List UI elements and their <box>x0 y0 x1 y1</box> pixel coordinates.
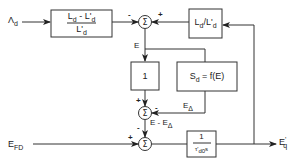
lambda-d-input-label: Λd <box>8 16 18 25</box>
feedback-path <box>223 25 254 144</box>
integrator-denominator: τ'd0s <box>187 146 216 152</box>
eq-prime-output-label: E'q <box>279 138 287 147</box>
sum3-symbol: Σ <box>142 140 147 149</box>
ratio-block-label: Ld/L'd <box>189 18 222 27</box>
sum2-plus-sign: + <box>136 97 141 105</box>
sum2-symbol: Σ <box>142 109 147 118</box>
integrator-numerator: 1 <box>187 133 216 141</box>
e-delta-arrow <box>152 91 205 113</box>
sum3-plus-sign: + <box>128 134 133 142</box>
e-branch-path <box>145 49 205 62</box>
e-delta-label: EΔ <box>183 102 193 110</box>
gain-block-numerator: Ld - L'd <box>51 12 112 21</box>
sum1-symbol: Σ <box>142 18 147 27</box>
gain-block-denominator: L'd <box>51 25 112 34</box>
unity-block-label: 1 <box>131 72 159 81</box>
sum1-plus-sign: + <box>158 11 163 19</box>
e-signal-label: E <box>134 42 139 50</box>
sum2-minus-sign: - <box>155 104 158 112</box>
sum3-minus-sign: - <box>137 124 140 132</box>
block-diagram-canvas: Σ Σ Σ <box>0 0 304 165</box>
saturation-block-label: Sd = f(E) <box>177 72 237 81</box>
efd-input-label: EFD <box>8 140 23 149</box>
sum1-minus-sign: - <box>128 11 131 19</box>
e-minus-e-delta-label: E - EΔ <box>150 119 172 127</box>
